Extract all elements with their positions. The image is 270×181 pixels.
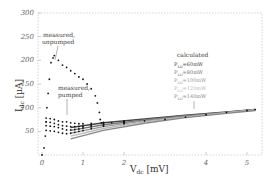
calculated-curve (71, 111, 256, 139)
y-axis-label: Idc [µA] (14, 79, 25, 112)
data-point (74, 131, 76, 133)
data-point (205, 114, 207, 116)
data-point (66, 121, 68, 123)
data-point (62, 64, 64, 66)
data-point (70, 70, 72, 72)
data-point (82, 78, 84, 80)
data-point (78, 128, 80, 130)
data-point (45, 121, 47, 123)
data-point (45, 117, 47, 119)
data-point (246, 110, 248, 112)
y-tick-label: 300 (21, 9, 35, 17)
data-point (78, 126, 80, 128)
data-point (45, 129, 47, 131)
data-point (58, 124, 60, 126)
data-point (90, 122, 92, 124)
data-point (226, 112, 228, 114)
measured-points (41, 55, 256, 156)
data-point (58, 127, 60, 129)
data-point (90, 126, 92, 128)
data-point (74, 122, 76, 124)
data-point (185, 116, 187, 118)
y-tick-label: 250 (20, 33, 35, 41)
annotation-unpumped: measured, (43, 31, 75, 38)
legend: PLO=60mWPLO=80mWPLO=100mWPLO=120mWPLO=14… (174, 61, 207, 101)
data-point (66, 129, 68, 131)
data-point (144, 120, 146, 122)
data-point (103, 125, 105, 127)
data-point (96, 102, 98, 104)
data-point (90, 128, 92, 130)
data-point (101, 122, 103, 124)
data-point (53, 119, 55, 121)
data-point (78, 130, 80, 132)
legend-entry: PLO=80mW (174, 69, 204, 77)
data-point (90, 88, 92, 90)
annotation-unpumped-2: unpumped (42, 38, 75, 46)
data-point (49, 125, 51, 127)
legend-entry: PLO=140mW (174, 93, 207, 101)
annotation-unpumped-pointer (55, 46, 58, 60)
data-point (70, 132, 72, 134)
legend-entry: PLO=120mW (174, 85, 207, 93)
annotation-pumped: measured, (58, 84, 90, 91)
data-point (78, 76, 80, 78)
data-point (49, 118, 51, 120)
x-tick-label: 2 (121, 159, 127, 167)
data-point (99, 119, 101, 121)
data-point (50, 62, 52, 64)
data-point (82, 125, 84, 127)
y-tick-label: 200 (20, 56, 35, 64)
legend-entry: PLO=60mW (174, 61, 204, 69)
data-point (46, 107, 48, 109)
data-point (58, 120, 60, 122)
data-point (62, 125, 64, 127)
data-point (99, 112, 101, 114)
data-point (111, 122, 113, 124)
data-point (49, 130, 51, 132)
data-point (41, 154, 43, 156)
data-point (52, 57, 54, 59)
y-tick-label: 50 (25, 127, 34, 135)
data-point (53, 122, 55, 124)
data-point (78, 123, 80, 125)
data-point (66, 133, 68, 135)
data-point (58, 59, 60, 61)
data-point (53, 55, 55, 57)
data-point (45, 125, 47, 127)
x-tick-label: 1 (81, 159, 85, 167)
x-axis-label: Vdc [mV] (129, 164, 169, 175)
data-point (43, 147, 45, 149)
annotation-pumped-2: pumped (58, 91, 83, 99)
data-point (82, 129, 84, 131)
data-point (53, 126, 55, 128)
data-point (254, 109, 256, 111)
data-point (44, 135, 46, 137)
data-point (70, 126, 72, 128)
data-point (164, 119, 166, 121)
data-point (49, 121, 51, 123)
calculated-curves (71, 110, 256, 139)
x-tick-label: 4 (203, 159, 208, 167)
data-point (74, 126, 76, 128)
data-point (62, 128, 64, 130)
data-point (48, 78, 50, 80)
data-point (74, 129, 76, 131)
data-point (47, 93, 49, 95)
legend-entry: PLO=100mW (174, 77, 207, 85)
data-point (82, 127, 84, 129)
data-point (94, 95, 96, 97)
legend-title: calculated (177, 51, 209, 58)
data-point (70, 129, 72, 131)
data-point (62, 121, 64, 123)
data-point (58, 131, 60, 133)
data-point (62, 132, 64, 134)
data-point (53, 130, 55, 132)
x-tick-label: 0 (40, 159, 45, 167)
data-point (70, 122, 72, 124)
data-point (123, 123, 125, 125)
data-point (66, 67, 68, 69)
data-point (82, 123, 84, 125)
x-tick-label: 5 (245, 159, 250, 167)
data-point (74, 73, 76, 75)
